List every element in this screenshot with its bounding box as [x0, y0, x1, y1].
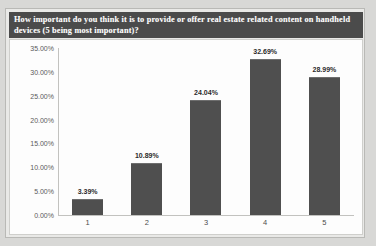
bar-group: 3.39% — [58, 48, 117, 215]
chart-title-banner: How important do you think it is to prov… — [9, 12, 363, 38]
bars-layer: 3.39% 10.89% 24.04% 32.69% 28.99% — [58, 48, 354, 215]
x-axis-tick-label: 1 — [58, 218, 117, 227]
bar-value-label: 28.99% — [295, 66, 354, 73]
bar-value-label: 32.69% — [236, 48, 295, 55]
x-axis-tick-label: 3 — [176, 218, 235, 227]
bar-value-label: 3.39% — [58, 188, 117, 195]
bar-value-label: 10.89% — [117, 152, 176, 159]
bar-2[interactable] — [131, 163, 162, 215]
bar-4[interactable] — [250, 59, 281, 215]
plot-area: 35.00% 30.00% 25.00% 20.00% 15.00% 10.00… — [10, 40, 362, 234]
y-axis-tick-label: 5.00% — [10, 188, 54, 195]
y-axis-tick-label: 35.00% — [10, 45, 54, 52]
x-axis-tick-label: 4 — [236, 218, 295, 227]
bar-3[interactable] — [190, 100, 221, 215]
bar-value-label: 24.04% — [176, 89, 235, 96]
y-axis-tick-label: 30.00% — [10, 68, 54, 75]
x-axis-tick-label: 2 — [117, 218, 176, 227]
bar-group: 24.04% — [176, 48, 235, 215]
y-axis-tick-label: 0.00% — [10, 212, 54, 219]
bar-group: 32.69% — [236, 48, 295, 215]
y-axis-tick-label: 20.00% — [10, 116, 54, 123]
bar-1[interactable] — [72, 199, 103, 215]
y-axis-tick-label: 25.00% — [10, 92, 54, 99]
x-axis-tick-labels: 1 2 3 4 5 — [58, 218, 354, 232]
y-axis-tick-label: 10.00% — [10, 164, 54, 171]
chart-figure: How important do you think it is to prov… — [5, 8, 365, 238]
x-axis-line — [58, 215, 354, 216]
bar-5[interactable] — [309, 77, 340, 215]
chart-plot-panel: 35.00% 30.00% 25.00% 20.00% 15.00% 10.00… — [9, 39, 363, 235]
bar-group: 28.99% — [295, 48, 354, 215]
bar-group: 10.89% — [117, 48, 176, 215]
chart-title: How important do you think it is to prov… — [14, 14, 358, 36]
x-axis-tick-label: 5 — [295, 218, 354, 227]
y-axis-tick-label: 15.00% — [10, 140, 54, 147]
